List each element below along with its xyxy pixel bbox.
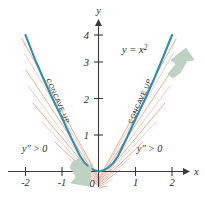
arrow-up-right-icon [168, 48, 194, 78]
concave-up-label-left: CONCAVE UP [45, 77, 71, 124]
x-tick-label-neg1: -1 [58, 177, 67, 188]
origin-label: 0 [89, 178, 95, 189]
tangent-line [26, 70, 99, 180]
y-axis-arrowhead [95, 19, 102, 26]
concave-up-label-right: CONCAVE UP [127, 77, 153, 124]
x-axis-arrowhead [183, 168, 190, 175]
axes [8, 19, 190, 187]
concavity-figure: -2 -1 1 2 0 1 2 3 4 x y y = x2 CONCAVE U… [0, 0, 205, 199]
y-tick-label-3: 3 [83, 57, 89, 68]
second-derivative-label-left: y″ > 0 [21, 143, 47, 154]
x-tick-label-neg2: -2 [21, 177, 30, 188]
y-tick-label-4: 4 [84, 30, 90, 41]
y-axis-label: y [95, 5, 101, 16]
equation-text: y = x2 [121, 44, 148, 56]
y-tick-label-1: 1 [84, 130, 89, 141]
figure-canvas: -2 -1 1 2 0 1 2 3 4 x y y = x2 CONCAVE U… [0, 0, 205, 199]
x-axis-label: x [193, 166, 199, 177]
equation-label: y = x2 [121, 44, 148, 56]
x-tick-label-1: 1 [133, 177, 138, 188]
arrow-up-right-shape [168, 48, 194, 78]
second-derivative-label-right: y″ > 0 [136, 143, 162, 154]
y-tick-label-2: 2 [84, 94, 90, 105]
x-tick-label-2: 2 [169, 177, 175, 188]
tangent-line [99, 70, 172, 180]
